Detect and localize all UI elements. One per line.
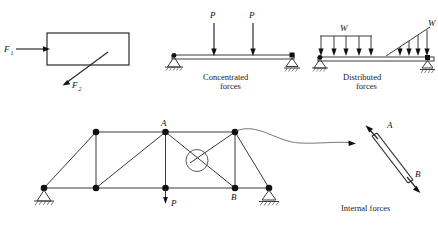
panel-distributed-forces: W W Distrib — [312, 18, 437, 91]
member-edge-1 — [372, 136, 408, 183]
beam-right-node-distributed — [425, 55, 430, 60]
panel-external-forces: F 1 F 2 — [3, 33, 129, 92]
member-end-a-label: A — [386, 120, 393, 130]
truss-load-arrowhead — [163, 197, 168, 204]
member-edge-2 — [377, 133, 413, 180]
truss-node-bottom-1 — [93, 185, 100, 192]
panel-truss: A B P — [34, 118, 279, 208]
callout-leader-line — [236, 129, 352, 144]
truss-load-label: P — [170, 198, 177, 208]
uniform-load-label: W — [340, 23, 349, 33]
callout-arrowhead — [348, 140, 356, 146]
body-rectangle — [47, 33, 129, 65]
roller-support-right-distributed-hatching — [421, 70, 434, 74]
force2-arrow-shaft — [66, 52, 108, 83]
truss-node-top-3 — [232, 129, 239, 136]
beam-member-distributed — [318, 57, 434, 61]
load-p1-label: P — [209, 10, 216, 20]
truss-roller-support-hatching — [260, 202, 279, 206]
pin-support-left-distributed — [314, 59, 326, 68]
pin-support-left-hatching — [166, 67, 183, 71]
truss-diagonal-interior-right — [166, 132, 236, 188]
panel-internal-forces: A B Internal forces — [236, 120, 421, 213]
truss-roller-support — [262, 190, 276, 200]
pin-support-left-distributed-hatching — [313, 68, 326, 72]
beam-right-node — [290, 53, 295, 58]
tension-arrow-b-head — [413, 186, 421, 193]
truss-diagonal-interior-right-upper — [190, 132, 235, 163]
truss-node-a-label: A — [160, 118, 167, 128]
member-end-b-label: B — [415, 169, 421, 179]
truss-node-b-label: B — [231, 192, 237, 202]
concentrated-caption-line2: forces — [220, 81, 241, 91]
internal-forces-caption: Internal forces — [341, 203, 390, 213]
load-p2-label: P — [248, 10, 255, 20]
truss-diagonal-left-end — [44, 132, 96, 188]
member-highlight-circle — [186, 150, 208, 172]
truss-node-top-1 — [93, 129, 100, 136]
force1-subscript: 1 — [11, 50, 14, 56]
roller-support-right-distributed — [422, 61, 433, 69]
force2-subscript: 2 — [79, 86, 82, 92]
force2-label: F — [71, 80, 78, 90]
uniform-load-arrows — [318, 36, 373, 56]
force1-label: F — [3, 44, 10, 54]
truss-pin-support — [37, 190, 51, 201]
truss-node-a — [162, 129, 169, 136]
mechanics-figure: F 1 F 2 P P Conc — [0, 0, 438, 229]
triangular-load-label: W — [428, 18, 437, 28]
truss-diagonal-right-end — [235, 132, 269, 188]
roller-support-right-hatching — [285, 68, 298, 72]
beam-member — [172, 55, 294, 59]
triangular-load-arrows — [397, 30, 429, 56]
panel-concentrated-forces: P P Concentrated forces — [165, 10, 300, 91]
truss-pin-support-hatching — [35, 201, 54, 205]
truss-node-b — [232, 185, 239, 192]
distributed-caption-line2: forces — [356, 81, 377, 91]
truss-diagonal-interior-left — [96, 132, 166, 188]
